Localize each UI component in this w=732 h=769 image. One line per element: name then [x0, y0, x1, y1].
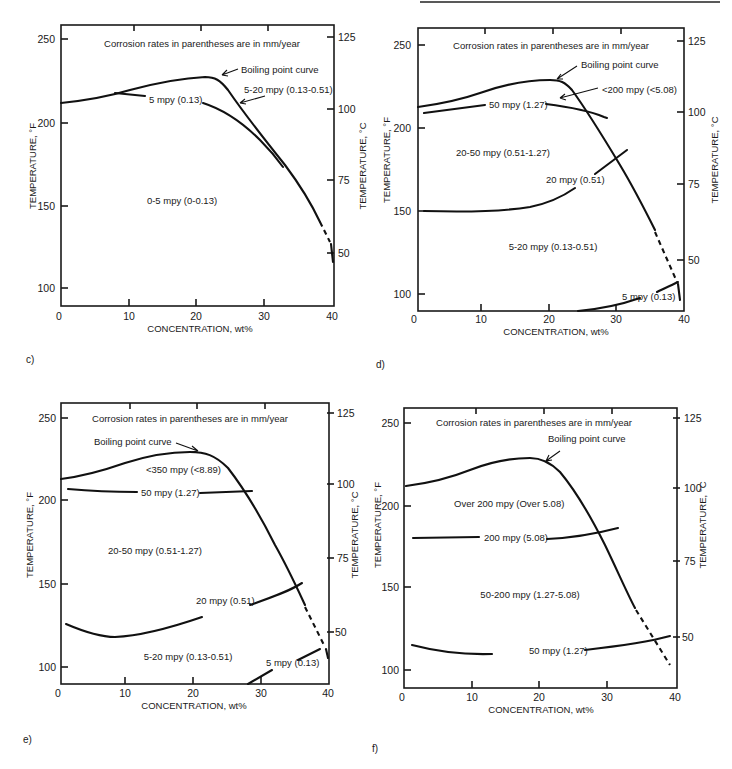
iso-corrosion-50mpy	[412, 645, 492, 654]
label-boiling: Boiling point curve	[94, 436, 172, 447]
label-boiling: Boiling point curve	[241, 64, 319, 75]
label-5-20mpy: 5-20 mpy (0.13-0.51)	[144, 651, 233, 662]
y2-tick-100: 100	[338, 103, 356, 115]
x-tick-0: 0	[399, 691, 405, 703]
panel-label-f: f)	[372, 743, 378, 754]
label-20-50mpy: 20-50 mpy (0.51-1.27)	[456, 147, 550, 158]
panel-label-d: d)	[376, 359, 385, 370]
x-tick-0: 0	[55, 687, 61, 699]
y-tick-100: 100	[38, 661, 56, 673]
y2-tick-50: 50	[688, 254, 700, 266]
label-boiling: Boiling point curve	[581, 59, 659, 70]
chart-note: Corrosion rates in parentheses are in mm…	[92, 413, 288, 424]
x-tick-40: 40	[326, 310, 338, 322]
x-tick-0: 0	[411, 313, 417, 325]
y-axis-label-c: TEMPERATURE, °C	[357, 122, 368, 209]
y2-tick-125: 125	[337, 407, 355, 419]
y2-tick-75: 75	[684, 555, 696, 567]
y-tick-250: 250	[393, 39, 411, 51]
label-over200mpy: Over 200 mpy (Over 5.08)	[454, 498, 564, 509]
y-axis-label-c: TEMPERATURE, °C	[697, 481, 708, 568]
label-0-5mpy: 0-5 mpy (0-0.13)	[147, 195, 217, 206]
chart-panel-d: 250 200 150 100 125 100 75 50 0 10 20 30…	[376, 28, 720, 370]
chart-panel-c: 250 200 150 100 125 100 75 50 0 10 20 30…	[26, 25, 368, 365]
y2-tick-100: 100	[688, 106, 706, 118]
x-axis-label: CONCENTRATION, wt%	[141, 700, 247, 711]
chart-note: Corrosion rates in parentheses are in mm…	[453, 40, 649, 51]
label-50mpy: 50 mpy (1.27)	[489, 99, 548, 110]
x-tick-10: 10	[475, 313, 487, 325]
y2-tick-75: 75	[688, 178, 700, 190]
x-tick-30: 30	[258, 310, 270, 322]
iso-corrosion-5mpy	[115, 93, 145, 96]
x-axis-label: CONCENTRATION, wt%	[503, 326, 609, 337]
y2-tick-125: 125	[338, 31, 356, 43]
y-tick-200: 200	[37, 117, 55, 129]
y2-tick-75: 75	[337, 552, 349, 564]
figure-canvas: 250 200 150 100 125 100 75 50 0 10 20 30…	[0, 0, 732, 769]
y2-tick-50: 50	[338, 247, 350, 259]
iso-corrosion-200mpy	[413, 537, 479, 538]
iso-corrosion-50mpy	[68, 489, 137, 492]
y-tick-250: 250	[37, 33, 55, 45]
label-5-20mpy: 5-20 mpy (0.13-0.51)	[244, 84, 333, 95]
y2-tick-75: 75	[338, 174, 350, 186]
x-tick-40: 40	[678, 313, 690, 325]
x-tick-10: 10	[466, 691, 478, 703]
y-tick-250: 250	[38, 412, 56, 424]
x-tick-20: 20	[543, 313, 555, 325]
x-tick-20: 20	[190, 310, 202, 322]
y-axis-label-f: TEMPERATURE, °F	[24, 492, 35, 578]
y-axis-label-f: TEMPERATURE, °F	[27, 123, 38, 209]
x-tick-40: 40	[322, 687, 334, 699]
y-tick-100: 100	[37, 282, 55, 294]
y2-tick-125: 125	[688, 35, 706, 47]
label-5mpy: 5 mpy (0.13)	[149, 94, 202, 105]
x-axis-label: CONCENTRATION, wt%	[488, 704, 594, 715]
y-axis-label-c: TEMPERATURE, °C	[349, 491, 360, 578]
chart-note: Corrosion rates in parentheses are in mm…	[104, 38, 300, 49]
x-tick-20: 20	[187, 687, 199, 699]
y-axis-label-f: TEMPERATURE, °F	[372, 482, 383, 568]
x-axis-label: CONCENTRATION, wt%	[147, 323, 253, 334]
y-tick-250: 250	[381, 417, 399, 429]
y-tick-150: 150	[37, 200, 55, 212]
label-20mpy: 20 mpy (0.51)	[546, 174, 605, 185]
chart-note: Corrosion rates in parentheses are in mm…	[436, 417, 632, 428]
y2-tick-50: 50	[682, 631, 694, 643]
x-tick-20: 20	[533, 691, 545, 703]
iso-corrosion-20mpy	[66, 617, 202, 637]
plot-frame	[418, 28, 684, 311]
y-axis-label-f: TEMPERATURE, °F	[381, 117, 392, 203]
label-50mpy: 50 mpy (1.27)	[529, 645, 588, 656]
label-lt200mpy: <200 mpy (<5.08)	[602, 84, 677, 95]
label-200mpy: 200 mpy (5.08)	[484, 532, 548, 543]
chart-panel-e: 250 200 150 100 125 100 75 50 0 10 20 30…	[23, 403, 360, 745]
label-5-20mpy: 5-20 mpy (0.13-0.51)	[509, 241, 598, 252]
y-tick-150: 150	[381, 581, 399, 593]
panel-label-e: e)	[23, 734, 32, 745]
x-tick-10: 10	[123, 310, 135, 322]
panel-label-c: c)	[26, 354, 34, 365]
y-tick-150: 150	[38, 578, 56, 590]
x-tick-30: 30	[601, 691, 613, 703]
label-50-200mpy: 50-200 mpy (1.27-5.08)	[480, 589, 579, 600]
label-20-50mpy: 20-50 mpy (0.51-1.27)	[108, 545, 202, 556]
label-50mpy: 50 mpy (1.27)	[141, 487, 200, 498]
x-tick-40: 40	[669, 691, 681, 703]
label-boiling: Boiling point curve	[548, 433, 626, 444]
label-5mpy: 5 mpy (0.13)	[622, 291, 675, 302]
x-tick-10: 10	[119, 687, 131, 699]
chart-panel-f: 250 200 150 100 125 100 75 50 0 10 20 30…	[372, 408, 708, 754]
label-5mpy: 5 mpy (0.13)	[266, 657, 319, 668]
y-tick-100: 100	[381, 664, 399, 676]
x-tick-30: 30	[255, 687, 267, 699]
y-tick-100: 100	[393, 288, 411, 300]
label-20mpy: 20 mpy (0.51)	[196, 595, 255, 606]
y-tick-200: 200	[38, 494, 56, 506]
x-tick-0: 0	[56, 310, 62, 322]
label-lt350mpy: <350 mpy (<8.89)	[146, 464, 221, 475]
y2-tick-100: 100	[337, 478, 355, 490]
y-tick-150: 150	[393, 205, 411, 217]
y-axis-label-c: TEMPERATURE, °C	[709, 116, 720, 203]
